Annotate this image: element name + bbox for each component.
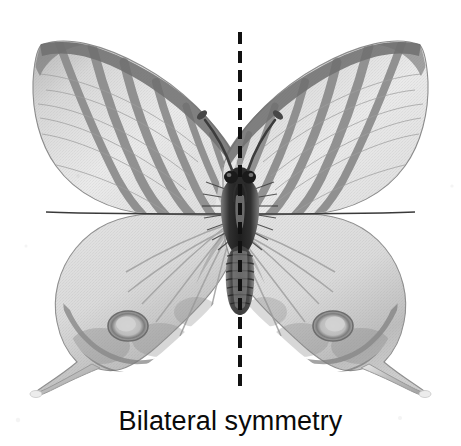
right-tail-tip [419,391,431,398]
right-eyespot [313,311,353,341]
bilateral-symmetry-figure: Bilateral symmetry [0,0,461,446]
left-compound-eye [224,171,238,184]
left-hindwing [30,214,238,398]
right-hindwing [223,214,431,398]
butterfly-specimen-illustration [0,0,461,446]
right-tail [361,364,428,396]
right-compound-eye [242,171,256,184]
left-eyespot [108,311,148,341]
figure-caption: Bilateral symmetry [0,404,461,438]
left-forewing [32,39,240,218]
left-tail [33,364,100,396]
left-tail-tip [30,391,42,398]
left-wing-group [30,39,240,398]
